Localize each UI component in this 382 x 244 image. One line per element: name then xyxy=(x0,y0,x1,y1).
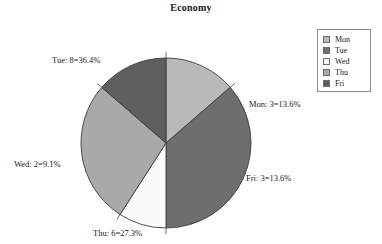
leader-tick-thu xyxy=(117,215,120,220)
legend-swatch-thu xyxy=(323,69,330,76)
pie-slices xyxy=(81,58,251,228)
legend-item-wed[interactable]: Wed xyxy=(323,56,370,67)
leader-tick-fri xyxy=(97,83,102,87)
slice-label-wed: Wed: 2=9.1% xyxy=(14,159,61,169)
legend-item-thu[interactable]: Thu xyxy=(323,67,370,78)
legend-swatch-wed xyxy=(323,58,330,65)
legend-label: Thu xyxy=(335,68,348,77)
legend-label: Fri xyxy=(335,79,344,88)
legend-swatch-mon xyxy=(323,36,330,43)
pie-chart: Economy Tue: 8=36.4% Mon: 3=13.6% Fri: 3… xyxy=(0,0,382,244)
legend-item-mon[interactable]: Mon xyxy=(323,34,370,45)
legend-label: Wed xyxy=(335,57,349,66)
chart-legend: MonTueWedThuFri xyxy=(317,29,371,92)
slice-label-fri: Fri: 3=13.6% xyxy=(246,173,291,183)
slice-label-tue: Tue: 8=36.4% xyxy=(52,55,100,65)
leader-tick-tue xyxy=(230,83,235,87)
slice-label-thu: Thu: 6=27.3% xyxy=(93,228,142,238)
legend-label: Tue xyxy=(335,46,347,55)
legend-swatch-tue xyxy=(323,47,330,54)
legend-swatch-fri xyxy=(323,80,330,87)
slice-label-mon: Mon: 3=13.6% xyxy=(249,99,301,109)
legend-item-tue[interactable]: Tue xyxy=(323,45,370,56)
legend-item-fri[interactable]: Fri xyxy=(323,78,370,89)
legend-label: Mon xyxy=(335,35,350,44)
